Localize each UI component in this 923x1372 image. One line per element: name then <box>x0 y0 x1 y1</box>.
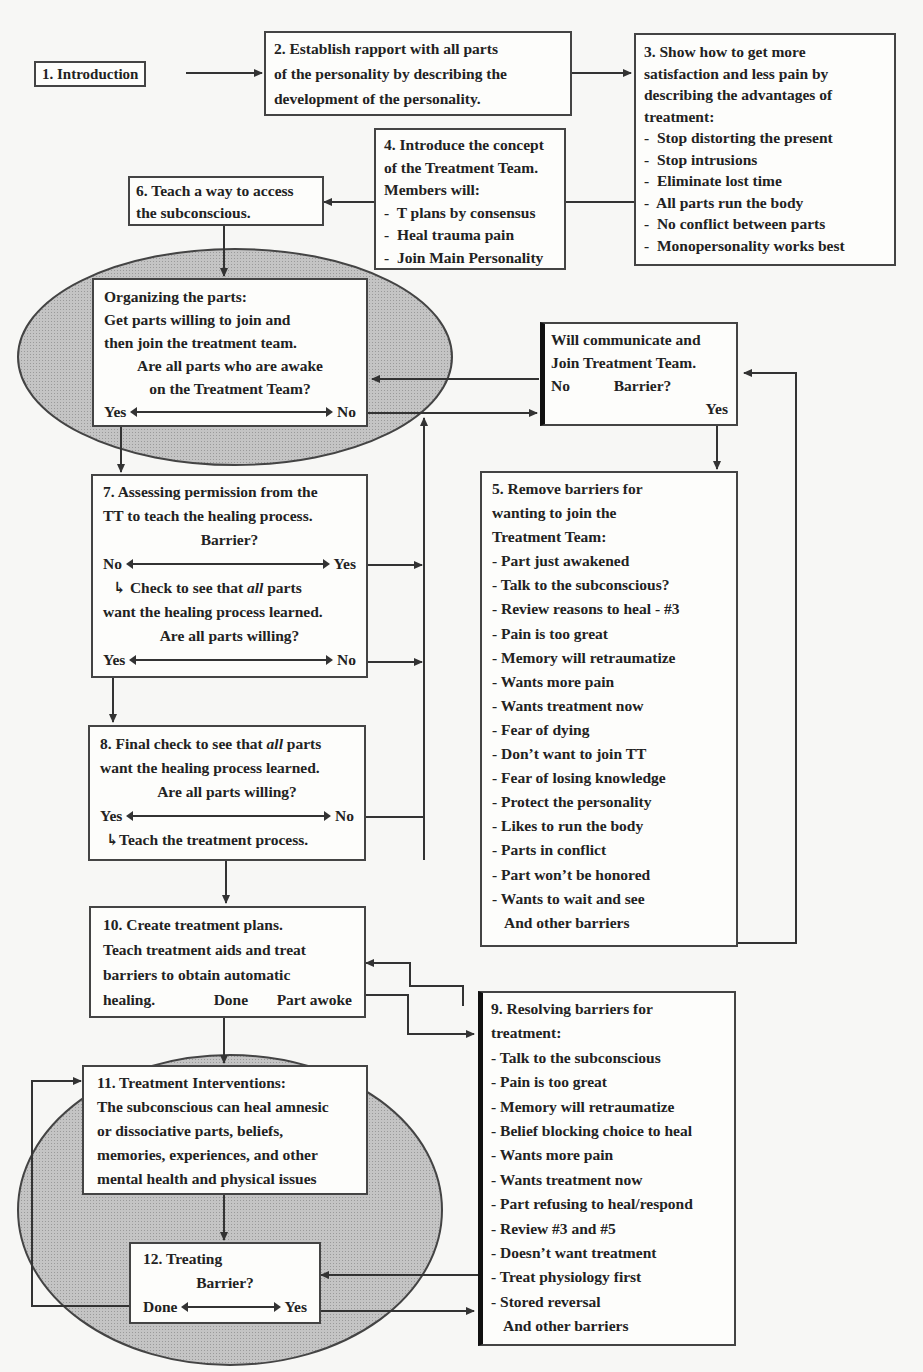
list-item: - Treat physiology first <box>491 1265 726 1289</box>
node-text: TT to teach the healing process. <box>103 504 356 528</box>
branch-yes: Yes <box>334 552 356 576</box>
node-advantages-of-treatment: 3. Show how to get more satisfaction and… <box>634 33 896 266</box>
branch-part-awoke: Part awoke <box>277 987 352 1012</box>
double-arrow-icon <box>136 411 327 413</box>
node-text: 10. Create treatment plans. <box>103 912 352 937</box>
list-item: - Likes to run the body <box>492 814 726 838</box>
list-item: - Wants treatment now <box>491 1168 726 1192</box>
node-treating: 12. Treating Barrier? Done Yes <box>129 1242 321 1324</box>
node-final-check: 8. Final check to see that all parts wan… <box>88 725 366 861</box>
node-introduction: 1. Introduction <box>34 61 146 87</box>
branch-yes: Yes <box>551 397 728 420</box>
list-item: - Memory will retraumatize <box>491 1095 726 1119</box>
node-text: of the personality by describing the <box>274 61 562 86</box>
node-text: Organizing the parts: <box>104 285 356 308</box>
branch-done: Done <box>143 1295 177 1319</box>
decision-branches: Yes No <box>100 804 354 828</box>
list-item: - Eliminate lost time <box>644 170 886 192</box>
branch-no: No <box>335 804 354 828</box>
list-item: - Wants more pain <box>492 670 726 694</box>
list-item: - All parts run the body <box>644 192 886 214</box>
node-resolving-barriers: 9. Resolving barriers for treatment: - T… <box>478 991 736 1346</box>
decision-question: Barrier? <box>143 1271 307 1295</box>
decision-branches: Done Yes <box>143 1295 307 1319</box>
list-item: - Protect the personality <box>492 790 726 814</box>
node-assessing-permission: 7. Assessing permission from the TT to t… <box>91 474 368 678</box>
list-item: - Belief blocking choice to heal <box>491 1119 726 1143</box>
list-item: - Stored reversal <box>491 1290 726 1314</box>
node-text: 3. Show how to get more <box>644 41 886 63</box>
list-footer: And other barriers <box>492 911 726 935</box>
list-item: - Part won’t be honored <box>492 863 726 887</box>
flowchart-canvas: 1. Introduction 2. Establish rapport wit… <box>0 0 923 1372</box>
decision-branches: Yes No <box>103 648 356 672</box>
node-organizing-parts: Organizing the parts: Get parts willing … <box>92 278 368 427</box>
elbow-arrow-icon: ↳ <box>106 831 119 848</box>
list-item: - Heal trauma pain <box>384 224 556 247</box>
node-text: 8. Final check to see that all parts <box>100 732 354 756</box>
node-treatment-team-concept: 4. Introduce the concept of the Treatmen… <box>374 128 566 270</box>
node-text: want the healing process learned. <box>100 756 354 780</box>
branch-yes: Yes <box>285 1295 307 1319</box>
node-text: 2. Establish rapport with all parts <box>274 36 562 61</box>
branch-done: Done <box>214 987 248 1012</box>
double-arrow-icon <box>135 659 327 661</box>
list-item: - Monopersonality works best <box>644 235 886 257</box>
node-text: Members will: <box>384 179 556 202</box>
branch-no: No <box>337 400 356 423</box>
list-footer: And other barriers <box>491 1314 726 1338</box>
elbow-arrow-icon: ↳ <box>113 579 130 596</box>
list-item: - Stop intrusions <box>644 149 886 171</box>
list-item: - T plans by consensus <box>384 202 556 225</box>
list-item: - Pain is too great <box>491 1070 726 1094</box>
list-item: - Wants treatment now <box>492 694 726 718</box>
node-text: treatment: <box>644 106 886 128</box>
branch-yes: Yes <box>103 648 125 672</box>
decision-question: Barrier? <box>103 528 356 552</box>
node-text: 12. Treating <box>143 1247 307 1271</box>
list-item: - Parts in conflict <box>492 838 726 862</box>
list-item: - Review #3 and #5 <box>491 1217 726 1241</box>
list-item: - Pain is too great <box>492 622 726 646</box>
node-establish-rapport: 2. Establish rapport with all parts of t… <box>264 31 572 116</box>
node-text: 9. Resolving barriers for <box>491 997 726 1021</box>
branch-yes: Yes <box>104 400 126 423</box>
list-item: - Part just awakened <box>492 549 726 573</box>
node-remove-barriers: 5. Remove barriers for wanting to join t… <box>480 471 738 947</box>
list-item: - Stop distorting the present <box>644 127 886 149</box>
branch-no: No <box>337 648 356 672</box>
result-line: ↳Teach the treatment process. <box>100 828 354 852</box>
double-arrow-icon <box>132 815 325 817</box>
branch-no: No <box>103 552 122 576</box>
node-text: the subconscious. <box>136 202 316 224</box>
node-text: satisfaction and less pain by <box>644 63 886 85</box>
list-item: - Wants more pain <box>491 1143 726 1167</box>
decision-row: No Barrier? <box>551 374 728 397</box>
node-create-treatment-plans: 10. Create treatment plans. Teach treatm… <box>89 906 366 1018</box>
list-item: - Doesn’t want treatment <box>491 1241 726 1265</box>
node-text: want the healing process learned. <box>103 600 356 624</box>
decision-question: on the Treatment Team? <box>104 377 356 400</box>
node-text: 4. Introduce the concept <box>384 134 556 157</box>
branch-yes: Yes <box>100 804 122 828</box>
list-item: - Don’t want to join TT <box>492 742 726 766</box>
branch-no: No <box>551 377 570 394</box>
decision-question: Are all parts willing? <box>103 624 356 648</box>
list-item: - Join Main Personality <box>384 247 556 270</box>
node-text: then join the treatment team. <box>104 331 356 354</box>
node-text: of the Treatment Team. <box>384 157 556 180</box>
decision-question: Are all parts who are awake <box>104 354 356 377</box>
node-text: development of the personality. <box>274 86 562 111</box>
check-line: ↳ Check to see that all parts <box>103 576 356 600</box>
node-text: 1. Introduction <box>42 63 138 85</box>
node-access-subconscious: 6. Teach a way to access the subconsciou… <box>128 176 324 226</box>
node-text: describing the advantages of <box>644 84 886 106</box>
list-item: - Talk to the subconscious? <box>492 573 726 597</box>
node-text: or dissociative parts, beliefs, <box>97 1119 353 1143</box>
node-text: mental health and physical issues <box>97 1167 353 1191</box>
node-text: barriers to obtain automatic <box>103 962 352 987</box>
decision-question: Barrier? <box>614 377 672 394</box>
list-item: - Fear of dying <box>492 718 726 742</box>
node-text: 7. Assessing permission from the <box>103 480 356 504</box>
list-item: - Talk to the subconscious <box>491 1046 726 1070</box>
